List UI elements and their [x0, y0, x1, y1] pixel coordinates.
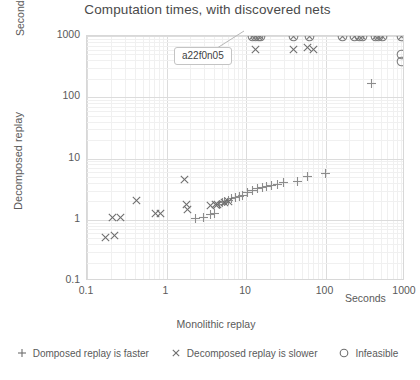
- gridline-vertical-minor: [149, 36, 150, 279]
- gridline-vertical-minor: [125, 36, 126, 279]
- gridline-vertical-minor: [308, 36, 309, 279]
- gridline-horizontal-minor: [87, 201, 403, 202]
- gridline-vertical-minor: [135, 36, 136, 279]
- gridline-horizontal-minor: [87, 100, 403, 101]
- gridline-vertical-minor: [373, 36, 374, 279]
- gridline-horizontal-minor: [87, 79, 403, 80]
- cross-icon: [171, 348, 182, 359]
- gridline-vertical-minor: [284, 36, 285, 279]
- gridline-horizontal-minor: [87, 111, 403, 112]
- gridline-horizontal-minor: [87, 172, 403, 173]
- gridline-vertical-minor: [204, 36, 205, 279]
- gridline-horizontal-minor: [87, 103, 403, 104]
- gridline-vertical-minor: [214, 36, 215, 279]
- x-axis-tick-labels: 0.11101001000: [0, 284, 415, 300]
- y-tick-label: 1000: [38, 28, 80, 40]
- gridline-horizontal-minor: [87, 191, 403, 192]
- gridline-horizontal-minor: [87, 164, 403, 165]
- data-point: [115, 212, 126, 223]
- gridline-horizontal-minor: [87, 226, 403, 227]
- gridline-horizontal-minor: [87, 183, 403, 184]
- gridline-vertical: [167, 36, 168, 279]
- data-point: [198, 212, 209, 223]
- annotation-callout: a22f0n05: [174, 47, 232, 65]
- gridline-horizontal: [87, 159, 403, 160]
- y-axis-tick-labels: 10001001010.1: [36, 0, 80, 380]
- gridline-horizontal-minor: [87, 107, 403, 108]
- gridline-horizontal-minor: [87, 68, 403, 69]
- gridline-vertical-minor: [381, 36, 382, 279]
- legend-label: Decomposed replay is slower: [187, 348, 318, 359]
- gridline-vertical-minor: [387, 36, 388, 279]
- gridline-vertical-minor: [222, 36, 223, 279]
- gridline-vertical-minor: [111, 36, 112, 279]
- data-point: [107, 212, 118, 223]
- gridline-horizontal-minor: [87, 233, 403, 234]
- gridline-vertical-minor: [318, 36, 319, 279]
- gridline-horizontal: [87, 220, 403, 221]
- gridline-vertical-minor: [397, 36, 398, 279]
- y-axis-title: Decomposed replay: [12, 86, 24, 236]
- gridline-horizontal-minor: [87, 177, 403, 178]
- legend-label: Domposed replay is faster: [33, 348, 149, 359]
- gridline-horizontal-minor: [87, 238, 403, 239]
- gridline-vertical-minor: [294, 36, 295, 279]
- gridline-horizontal-minor: [87, 161, 403, 162]
- y-axis-unit-label: Seconds: [14, 0, 26, 36]
- gridline-vertical-minor: [154, 36, 155, 279]
- data-point: [155, 208, 166, 219]
- gridline-horizontal: [87, 97, 403, 98]
- gridline-vertical-minor: [159, 36, 160, 279]
- gridline-vertical: [87, 36, 88, 279]
- gridline-horizontal-minor: [87, 129, 403, 130]
- gridline-vertical: [246, 36, 247, 279]
- data-point: [272, 179, 283, 190]
- gridline-vertical-minor: [270, 36, 271, 279]
- x-tick-label: 1: [141, 284, 191, 296]
- gridline-vertical-minor: [393, 36, 394, 279]
- gridline-horizontal-minor: [87, 223, 403, 224]
- gridline-vertical: [326, 36, 327, 279]
- plus-icon: [17, 348, 28, 359]
- y-tick-label: 10: [38, 151, 80, 163]
- gridline-horizontal-minor: [87, 60, 403, 61]
- legend-item[interactable]: Decomposed replay is slower: [171, 348, 318, 359]
- gridline-horizontal-minor: [87, 263, 403, 264]
- gridline-vertical-minor: [238, 36, 239, 279]
- gridline-vertical-minor: [313, 36, 314, 279]
- gridline-horizontal-minor: [87, 252, 403, 253]
- gridline-vertical-minor: [163, 36, 164, 279]
- data-point: [182, 204, 193, 215]
- x-tick-label: 0.1: [61, 284, 111, 296]
- gridline-vertical-minor: [228, 36, 229, 279]
- gridline-vertical-minor: [302, 36, 303, 279]
- legend-label: Infeasible: [355, 348, 398, 359]
- gridline-vertical-minor: [143, 36, 144, 279]
- data-point: [242, 187, 253, 198]
- gridline-horizontal-minor: [87, 244, 403, 245]
- chart-legend: Domposed replay is fasterDecomposed repl…: [0, 348, 415, 359]
- gridline-vertical-minor: [234, 36, 235, 279]
- x-axis-title: Monolithic replay: [86, 318, 346, 330]
- data-point: [252, 183, 263, 194]
- legend-item[interactable]: Infeasible: [339, 348, 398, 359]
- gridline-vertical-minor: [363, 36, 364, 279]
- legend-item[interactable]: Domposed replay is faster: [17, 348, 149, 359]
- gridline-horizontal-minor: [87, 140, 403, 141]
- x-tick-label: 100: [300, 284, 350, 296]
- gridline-horizontal-minor: [87, 229, 403, 230]
- gridline-vertical-minor: [322, 36, 323, 279]
- data-point: [131, 195, 142, 206]
- x-tick-label: 10: [220, 284, 270, 296]
- gridline-horizontal-minor: [87, 168, 403, 169]
- y-tick-label: 100: [38, 89, 80, 101]
- gridline-horizontal-minor: [87, 116, 403, 117]
- y-tick-label: 1: [38, 212, 80, 224]
- gridline-vertical-minor: [190, 36, 191, 279]
- gridline-horizontal-minor: [87, 122, 403, 123]
- gridline-vertical-minor: [242, 36, 243, 279]
- gridline-vertical-minor: [401, 36, 402, 279]
- circle-icon: [339, 348, 350, 359]
- gridline-vertical-minor: [349, 36, 350, 279]
